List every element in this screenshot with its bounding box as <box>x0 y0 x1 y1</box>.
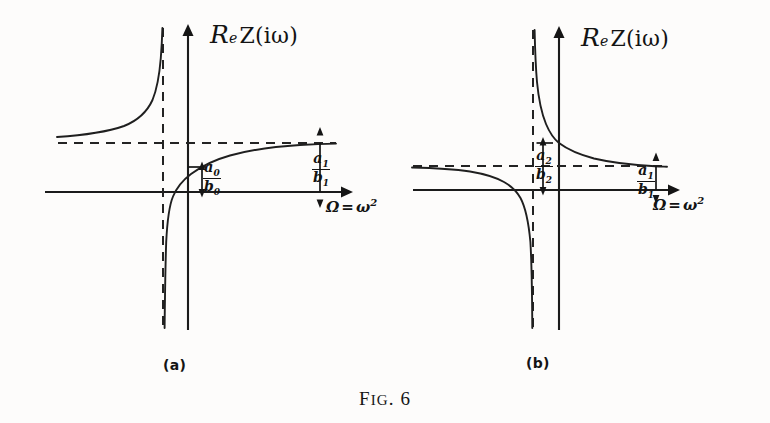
y-axis-label-a-sub-e: e <box>229 30 238 46</box>
x-axis-label-a-omega-cap: Ω <box>326 198 339 216</box>
figure-caption-smallcaps: IG <box>371 392 389 408</box>
y-axis-label-a-script-r: R <box>210 20 229 49</box>
x-axis-label-b-omega: ω <box>683 196 697 214</box>
x-axis-label-b-exponent: 2 <box>697 195 704 206</box>
figure-caption-suffix: . 6 <box>389 388 411 409</box>
x-axis-label-b-equals: = <box>666 196 683 214</box>
panel-b-plot <box>385 0 770 390</box>
y-axis-b <box>554 26 565 330</box>
figure-caption-prefix: F <box>359 388 371 409</box>
ratio-a1-b1-b: a1 b1 <box>637 163 655 200</box>
x-axis-arrowhead-a <box>341 187 353 198</box>
ratio-a0-b0-a-numerator: a0 <box>203 160 221 179</box>
figure-caption: FIG. 6 <box>0 388 770 410</box>
ratio-a1-b1-b-denominator: b1 <box>637 182 655 200</box>
panel-caption-b: (b) <box>526 355 550 371</box>
panel-b: ReZ(iω) Ω=ω2 a2 b2 a1 b1 (b) <box>385 0 770 390</box>
x-axis-label-a: Ω=ω2 <box>326 198 377 215</box>
y-axis-label-a-rest: Z(iω) <box>238 23 298 48</box>
x-axis-label-b: Ω=ω2 <box>653 196 704 213</box>
ratio-a0-b0-a: a0 b0 <box>203 160 221 197</box>
curve-left-branch-a <box>57 28 162 137</box>
ratio-a1-b1-b-numerator: a1 <box>637 163 655 182</box>
panel-caption-a: (a) <box>163 357 186 373</box>
ratio-a2-b2-b-denominator: b2 <box>535 167 553 185</box>
y-axis-label-b: ReZ(iω) <box>581 25 669 50</box>
figure-page: ReZ(iω) Ω=ω2 a0 b0 a1 b1 (a) <box>0 0 770 423</box>
y-axis-label-b-rest: Z(iω) <box>609 26 669 51</box>
y-axis-arrowhead-b <box>554 26 565 38</box>
panel-a-plot <box>0 0 385 390</box>
y-axis-label-b-sub-e: e <box>600 33 609 49</box>
ratio-a0-b0-a-denominator: b0 <box>203 179 221 197</box>
y-axis-label-a: ReZ(iω) <box>210 22 298 47</box>
x-axis-arrowhead-b <box>668 185 680 196</box>
ratio-a1-b1-a-numerator: a1 <box>312 151 330 170</box>
curve-right-branch-a <box>165 144 336 328</box>
y-axis-arrowhead-a <box>183 24 194 36</box>
curve-left-branch-b <box>412 168 532 329</box>
x-axis-label-a-equals: = <box>339 198 356 216</box>
panel-a: ReZ(iω) Ω=ω2 a0 b0 a1 b1 (a) <box>0 0 385 390</box>
ratio-a2-b2-b: a2 b2 <box>535 148 553 185</box>
x-axis-label-a-omega: ω <box>356 198 370 216</box>
ratio-a1-b1-a-denominator: b1 <box>312 170 330 188</box>
y-axis-label-b-script-r: R <box>581 23 600 52</box>
x-axis-label-a-exponent: 2 <box>370 197 377 208</box>
x-axis-a <box>45 187 353 198</box>
ratio-a1-b1-a: a1 b1 <box>312 151 330 188</box>
ratio-a2-b2-b-numerator: a2 <box>535 148 553 167</box>
